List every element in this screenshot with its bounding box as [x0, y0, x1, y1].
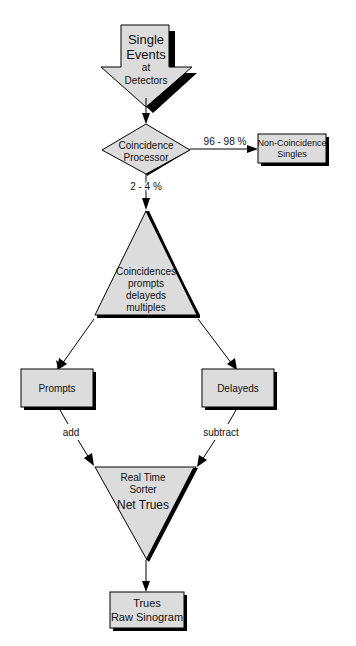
node-real-time-sorter: Real Time Sorter Net Trues: [95, 467, 198, 562]
pet-coincidence-flow-diagram: Single Events at Detectors Coincidence P…: [0, 0, 356, 646]
edge-delayeds-to-sorter: subtract: [197, 410, 239, 467]
edge-coincidences-to-prompts: [56, 319, 94, 370]
single-events-line-3: at: [142, 62, 151, 73]
processor-line-1: Coincidence: [118, 140, 173, 151]
sorter-line-1: Real Time: [120, 472, 165, 483]
node-coincidence-processor: Coincidence Processor: [102, 124, 190, 176]
sorter-line-2: Sorter: [129, 484, 157, 495]
edge-label-add: add: [63, 427, 80, 438]
edge-coincidences-to-delayeds: [198, 319, 237, 370]
coincidences-line-4: multiples: [126, 302, 165, 313]
edge-prompts-to-sorter: add: [60, 410, 94, 466]
single-events-line-4: Detectors: [125, 75, 168, 86]
edge-processor-to-coincidences: 2 - 4 %: [130, 174, 162, 210]
prompts-label: Prompts: [38, 383, 75, 394]
coincidences-line-2: prompts: [128, 278, 164, 289]
node-coincidences: Coincidences prompts delayeds multiples: [95, 211, 200, 318]
edge-sorter-to-trues: [142, 560, 150, 592]
trues-line-1: Trues: [133, 597, 161, 609]
coincidences-line-1: Coincidences: [116, 266, 176, 277]
edge-label-96-98: 96 - 98 %: [204, 136, 247, 147]
sorter-line-3: Net Trues: [117, 498, 169, 512]
edge-label-subtract: subtract: [203, 427, 239, 438]
processor-line-2: Processor: [123, 152, 169, 163]
edge-label-2-4: 2 - 4 %: [130, 181, 162, 192]
node-delayeds: Delayeds: [202, 369, 277, 410]
node-non-coincidence-singles: Non-Coincidence Singles: [257, 134, 329, 166]
single-events-line-1: Single: [128, 32, 164, 47]
trues-line-2: Raw Sinogram: [111, 611, 183, 623]
node-prompts: Prompts: [21, 369, 96, 410]
coincidences-line-3: delayeds: [126, 290, 166, 301]
edge-processor-to-non-coincidence: 96 - 98 %: [190, 136, 258, 153]
non-coincidence-line-2: Singles: [277, 149, 307, 159]
single-events-line-2: Events: [126, 47, 166, 62]
delayeds-label: Delayeds: [217, 383, 259, 394]
node-trues-raw-sinogram: Trues Raw Sinogram: [110, 592, 187, 631]
node-single-events: Single Events at Detectors: [101, 25, 197, 113]
non-coincidence-line-1: Non-Coincidence: [257, 138, 326, 148]
